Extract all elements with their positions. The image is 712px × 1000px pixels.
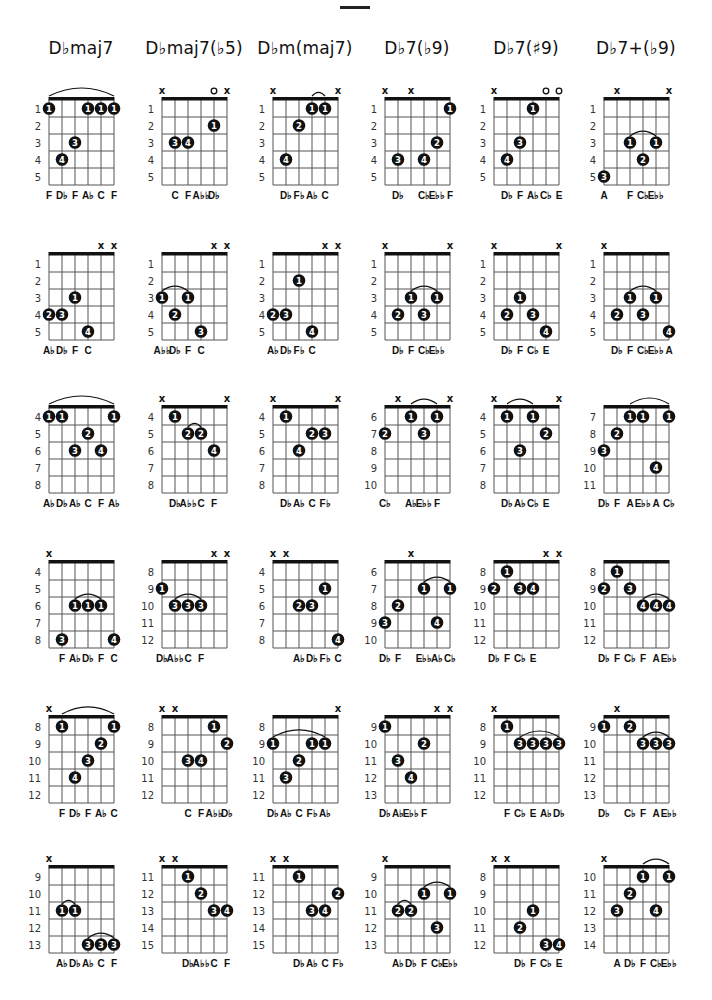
note-name: E [530, 653, 537, 664]
fret-number: 1 [259, 104, 265, 115]
finger-dot [293, 274, 306, 287]
finger-dot [540, 737, 553, 750]
finger-dot [637, 410, 650, 423]
barre-arc [643, 594, 669, 599]
note-name: F [98, 498, 104, 509]
finger-number: 2 [296, 121, 302, 131]
note-name: A♭ [43, 498, 55, 509]
chord-diagram: 910111213x12333D♭C♭FAE♭♭ [583, 703, 677, 819]
finger-dot [293, 870, 306, 883]
muted-string-icon: x [46, 703, 53, 714]
fret-number: 10 [583, 601, 596, 612]
finger-dot [553, 737, 566, 750]
fret-number: 9 [371, 872, 377, 883]
finger-number: 2 [382, 429, 388, 439]
barre-arc [75, 594, 101, 599]
finger-dot [319, 904, 332, 917]
fret-number: 3 [35, 138, 41, 149]
nut-bar [494, 97, 560, 101]
fret-number: 8 [148, 722, 154, 733]
fret-number: 6 [371, 567, 377, 578]
finger-number: 4 [408, 773, 414, 783]
note-name: F♭ [319, 498, 330, 509]
fret-number: 5 [259, 172, 265, 183]
finger-number: 3 [640, 739, 646, 749]
finger-number: 3 [517, 138, 523, 148]
fret-number: 10 [583, 463, 596, 474]
barre-arc [507, 399, 533, 404]
finger-dot [156, 291, 169, 304]
fret-number: 11 [364, 906, 377, 917]
note-name: F [59, 808, 65, 819]
note-name: A♭ [293, 498, 305, 509]
fret-number: 2 [259, 276, 265, 287]
finger-number: 1 [59, 722, 65, 732]
note-name: F [421, 808, 427, 819]
note-name: D♭ [392, 345, 404, 356]
note-name: A [652, 653, 659, 664]
note-name: E♭♭ [429, 190, 446, 201]
note-name: E♭♭ [403, 808, 420, 819]
fret-number: 5 [35, 429, 41, 440]
muted-string-icon: x [224, 240, 231, 251]
finger-number: 1 [447, 584, 453, 594]
finger-number: 1 [98, 601, 104, 611]
finger-dot [208, 720, 221, 733]
fret-number: 1 [148, 259, 154, 270]
note-name: F [198, 808, 204, 819]
muted-string-icon: x [491, 703, 498, 714]
finger-number: 1 [111, 722, 117, 732]
muted-string-icon: x [614, 703, 621, 714]
note-name: A♭♭ [192, 190, 209, 201]
note-name: F♭ [306, 808, 317, 819]
barre-arc [88, 933, 114, 938]
finger-dot [306, 325, 319, 338]
fret-number: 5 [259, 584, 265, 595]
note-name: A♭ [43, 345, 55, 356]
fret-number: 9 [480, 739, 486, 750]
finger-dot [624, 582, 637, 595]
finger-dot [431, 921, 444, 934]
note-name: F [224, 958, 230, 969]
fret-number: 12 [583, 635, 596, 646]
finger-dot [405, 410, 418, 423]
fret-number: 3 [148, 138, 154, 149]
finger-dot [182, 870, 195, 883]
fret-number: 9 [480, 584, 486, 595]
fret-number: 8 [35, 722, 41, 733]
finger-dot [501, 410, 514, 423]
barre-arc [49, 396, 114, 404]
note-name: E [556, 190, 563, 201]
finger-dot [280, 153, 293, 166]
muted-string-icon: x [46, 548, 53, 559]
finger-dot [514, 582, 527, 595]
note-name: C [321, 958, 328, 969]
fret-number: 13 [583, 923, 596, 934]
fret-number: 10 [583, 872, 596, 883]
finger-dot [611, 427, 624, 440]
finger-number: 3 [614, 906, 620, 916]
nut-bar [49, 252, 115, 256]
finger-number: 3 [543, 940, 549, 950]
finger-dot [527, 102, 540, 115]
nut-bar [49, 405, 115, 409]
finger-dot [501, 308, 514, 321]
finger-number: 4 [640, 601, 646, 611]
finger-number: 1 [283, 412, 289, 422]
finger-dot [82, 325, 95, 338]
nut-bar [162, 252, 228, 256]
note-name: E [530, 808, 537, 819]
muted-string-icon: x [335, 240, 342, 251]
finger-number: 1 [653, 293, 659, 303]
fret-number: 7 [480, 463, 486, 474]
finger-dot [280, 771, 293, 784]
finger-dot [624, 887, 637, 900]
nut-bar [162, 715, 228, 719]
finger-number: 2 [543, 429, 549, 439]
chord-header: D♭maj7(♭5) [134, 38, 254, 58]
finger-number: 3 [421, 429, 427, 439]
fret-number: 9 [371, 463, 377, 474]
finger-dot [306, 737, 319, 750]
chord-diagram: 89101112xx1234D♭FC♭E [473, 548, 563, 664]
finger-dot [624, 291, 637, 304]
